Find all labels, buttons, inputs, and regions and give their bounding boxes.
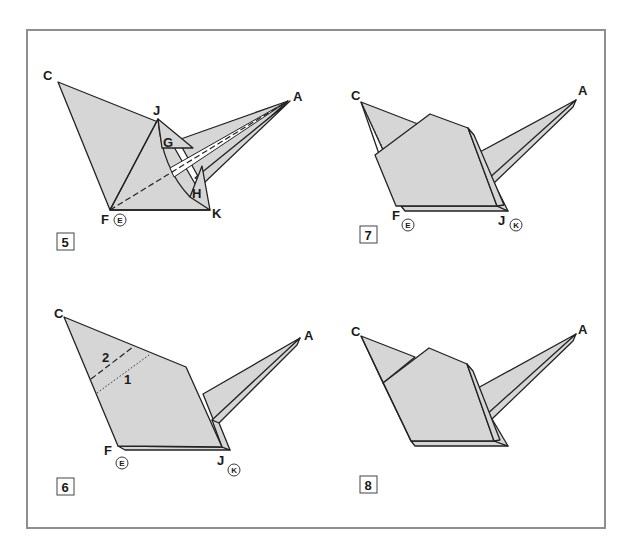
- point-label: A: [578, 322, 588, 337]
- point-label: K: [212, 206, 222, 221]
- point-label: A: [304, 328, 314, 343]
- point-label: A: [293, 89, 303, 104]
- step7-base-layer: [401, 206, 508, 211]
- step6-body: [64, 317, 222, 447]
- point-label: J: [153, 103, 160, 118]
- circled-point-label: K: [513, 221, 519, 230]
- circled-point-label: E: [405, 221, 411, 230]
- point-label: F: [392, 208, 400, 223]
- step-8: C A 8: [351, 322, 588, 493]
- point-label: C: [351, 324, 361, 339]
- step8-base-layer: [411, 441, 508, 446]
- step-7: C A F J E K 7: [351, 83, 588, 243]
- step-number: 5: [62, 235, 69, 250]
- circled-point-label: K: [231, 466, 237, 475]
- origami-diagram: C J G A H F K E 5 2 1 C A F J E K 6: [0, 0, 635, 554]
- step-number: 8: [365, 478, 372, 493]
- step-number: 6: [62, 480, 69, 495]
- point-label: J: [498, 213, 505, 228]
- step-6: 2 1 C A F J E K 6: [54, 306, 314, 495]
- point-label: F: [104, 443, 112, 458]
- point-label: A: [578, 83, 588, 98]
- point-label: F: [101, 212, 109, 227]
- circled-point-label: E: [119, 459, 125, 468]
- circled-point-label: E: [117, 216, 123, 225]
- point-label: G: [163, 135, 173, 150]
- point-label: C: [54, 306, 64, 321]
- step-5: C J G A H F K E 5: [43, 68, 303, 250]
- step-number: 7: [365, 228, 372, 243]
- point-label: C: [351, 88, 361, 103]
- fold-label: 2: [102, 350, 109, 365]
- point-label: C: [43, 68, 53, 83]
- fold-label: 1: [124, 372, 131, 387]
- point-label: H: [192, 186, 201, 201]
- step5-arm-upper: [178, 101, 288, 180]
- point-label: J: [217, 453, 224, 468]
